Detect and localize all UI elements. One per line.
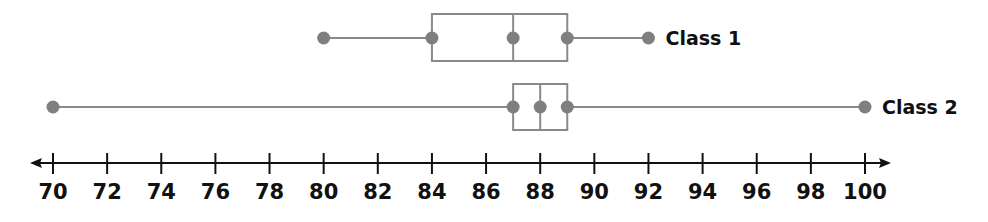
tick-label: 84 [417, 180, 446, 204]
tick-label: 100 [843, 180, 887, 204]
tick-label: 82 [363, 180, 392, 204]
q1-point [507, 101, 520, 114]
box-plots: Class 1Class 2 [47, 14, 958, 130]
box-plot-1: Class 1 [317, 14, 741, 61]
tick-label: 78 [255, 180, 284, 204]
tick-label: 98 [796, 180, 825, 204]
box-plot-2: Class 2 [47, 84, 958, 130]
tick-label: 70 [38, 180, 67, 204]
box-plot-chart: Class 1Class 2 7072747678808284868890929… [0, 0, 988, 222]
series-label: Class 1 [665, 27, 741, 49]
iqr-box [432, 14, 567, 61]
min-point [47, 101, 60, 114]
q1-point [425, 32, 438, 45]
tick-label: 92 [634, 180, 663, 204]
tick-label: 80 [309, 180, 338, 204]
median-point [507, 32, 520, 45]
number-line-axis: 707274767880828486889092949698100 [30, 153, 891, 204]
max-point [859, 101, 872, 114]
q3-point [561, 101, 574, 114]
tick-label: 76 [201, 180, 230, 204]
median-point [534, 101, 547, 114]
tick-label: 90 [580, 180, 609, 204]
tick-label: 96 [742, 180, 771, 204]
tick-label: 72 [93, 180, 122, 204]
min-point [317, 32, 330, 45]
tick-label: 74 [147, 180, 176, 204]
tick-label: 94 [688, 180, 717, 204]
max-point [642, 32, 655, 45]
tick-label: 86 [471, 180, 500, 204]
tick-label: 88 [526, 180, 555, 204]
series-label: Class 2 [882, 96, 958, 118]
q3-point [561, 32, 574, 45]
